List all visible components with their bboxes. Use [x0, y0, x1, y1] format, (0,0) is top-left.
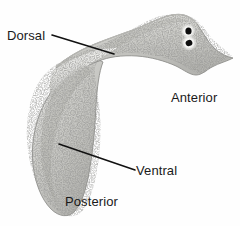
- label-ventral: Ventral: [136, 164, 177, 177]
- eyespot-upper: [185, 27, 191, 34]
- worm-grain: [20, 8, 240, 223]
- label-anterior: Anterior: [171, 91, 217, 104]
- worm-body: [20, 8, 240, 223]
- label-dorsal: Dorsal: [7, 29, 45, 42]
- label-posterior: Posterior: [65, 195, 118, 208]
- specimen-figure: Dorsal Anterior Ventral Posterior: [0, 0, 240, 226]
